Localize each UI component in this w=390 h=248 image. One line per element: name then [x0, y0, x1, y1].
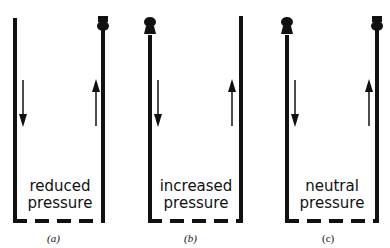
arrow-down-icon [291, 114, 299, 127]
caption-line: reduced [5, 178, 115, 195]
caption-line: pressure [277, 195, 387, 212]
panel-c-caption: neutral pressure [277, 178, 387, 212]
cowl-icon [97, 16, 109, 31]
arrow-up-icon [365, 79, 373, 92]
panel-c-label: (c) [322, 232, 334, 244]
cowl-icon [371, 16, 383, 31]
panel-a-caption: reduced pressure [5, 178, 115, 212]
arrow-down-icon [19, 114, 27, 127]
arrow-down-icon [154, 114, 162, 127]
caption-line: pressure [141, 195, 251, 212]
caption-line: increased [141, 178, 251, 195]
arrow-up-icon [92, 79, 100, 92]
cowl-icon [281, 17, 293, 34]
cowl-icon [144, 17, 156, 34]
caption-line: neutral [277, 178, 387, 195]
caption-line: pressure [5, 195, 115, 212]
arrow-up-icon [228, 79, 236, 92]
panel-a-label: (a) [47, 232, 60, 244]
panel-b-caption: increased pressure [141, 178, 251, 212]
panel-b-label: (b) [184, 232, 197, 244]
